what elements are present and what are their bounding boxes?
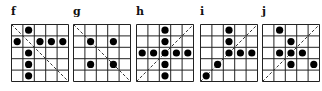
dot bbox=[48, 38, 55, 45]
dot bbox=[203, 72, 210, 79]
dot bbox=[110, 61, 117, 68]
grid-lines bbox=[11, 24, 69, 82]
grid-lines bbox=[136, 24, 194, 82]
panel-label: f bbox=[11, 6, 16, 18]
dot bbox=[161, 49, 168, 56]
dot-grid bbox=[262, 24, 319, 81]
panel-f: f bbox=[11, 0, 73, 91]
dot bbox=[139, 49, 146, 56]
dot bbox=[161, 38, 168, 45]
dot bbox=[287, 49, 294, 56]
symmetry-diagonal bbox=[12, 25, 69, 82]
dot bbox=[214, 61, 221, 68]
dot bbox=[59, 38, 66, 45]
grid-lines bbox=[200, 24, 258, 82]
panel-label: h bbox=[136, 6, 144, 18]
panel-label: g bbox=[73, 6, 81, 18]
dot bbox=[36, 38, 43, 45]
dot bbox=[184, 49, 191, 56]
panel-g: g bbox=[73, 0, 135, 91]
dot bbox=[225, 27, 232, 34]
dot bbox=[161, 61, 168, 68]
dot bbox=[276, 27, 283, 34]
dot-grid bbox=[11, 24, 68, 81]
dot bbox=[14, 38, 21, 45]
grid-lines bbox=[73, 24, 131, 82]
panel-h: h bbox=[136, 0, 198, 91]
grid-lines bbox=[262, 24, 320, 82]
dot-grid bbox=[136, 24, 193, 81]
dot bbox=[87, 38, 94, 45]
dot bbox=[225, 49, 232, 56]
panel-label: i bbox=[200, 6, 204, 18]
dot bbox=[237, 49, 244, 56]
panel-label: j bbox=[262, 6, 266, 18]
dot bbox=[161, 27, 168, 34]
dot bbox=[299, 49, 306, 56]
dot bbox=[150, 49, 157, 56]
dot bbox=[161, 72, 168, 79]
dot bbox=[225, 38, 232, 45]
symmetry-diagonal bbox=[74, 25, 131, 82]
dot bbox=[276, 49, 283, 56]
dot bbox=[87, 61, 94, 68]
dot bbox=[173, 49, 180, 56]
dot bbox=[25, 72, 32, 79]
dot-grid bbox=[200, 24, 257, 81]
dot bbox=[287, 61, 294, 68]
dot bbox=[310, 61, 317, 68]
panel-i: i bbox=[200, 0, 262, 91]
dot bbox=[25, 49, 32, 56]
dot bbox=[25, 27, 32, 34]
dot bbox=[25, 61, 32, 68]
dot bbox=[248, 49, 255, 56]
dot bbox=[110, 38, 117, 45]
dot-grid bbox=[73, 24, 130, 81]
panel-j: j bbox=[262, 0, 322, 91]
dot bbox=[287, 38, 294, 45]
